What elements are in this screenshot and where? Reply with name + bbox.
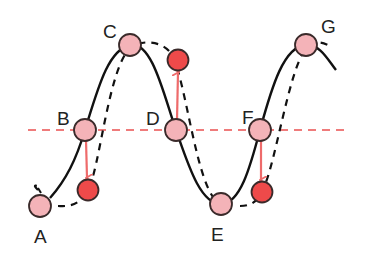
displaced-particle-f [252, 182, 273, 203]
particle-b [74, 119, 96, 141]
label-a: A [34, 226, 47, 247]
wave-tail-a [38, 188, 41, 193]
wave-diagram: A B C D E F G [0, 0, 367, 257]
label-d: D [146, 108, 160, 129]
arrow-b-down [86, 140, 87, 178]
label-b: B [57, 108, 70, 129]
particle-c [119, 34, 141, 56]
displaced-particle-b [78, 180, 99, 201]
label-c: C [103, 21, 117, 42]
arrow-d-up [177, 72, 178, 120]
label-g: G [321, 16, 336, 37]
particle-g [295, 34, 317, 56]
particle-e [210, 193, 232, 215]
label-e: E [211, 224, 224, 245]
label-f: F [242, 107, 254, 128]
particle-a [29, 195, 51, 217]
particle-d [165, 119, 187, 141]
displaced-particle-d [168, 50, 189, 71]
